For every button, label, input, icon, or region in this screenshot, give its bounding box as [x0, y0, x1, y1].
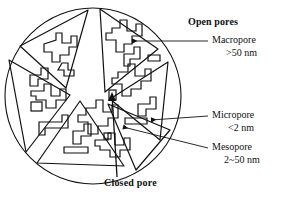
label-mesopore: Mesopore — [212, 142, 252, 153]
label-closed-pore: Closed pore — [104, 178, 157, 189]
leader-mesopore — [123, 127, 208, 148]
label-micropore: Micropore — [212, 110, 254, 121]
label-macropore: Macropore — [212, 35, 256, 46]
figure-canvas: Open pores Macropore >50 nm Micropore <2… — [0, 0, 281, 198]
label-open-pores: Open pores — [188, 17, 238, 28]
leader-micropore — [151, 116, 208, 120]
label-macropore-size: >50 nm — [226, 48, 257, 59]
pore-structure-diagram — [0, 0, 281, 198]
label-mesopore-size: 2~50 nm — [224, 155, 260, 166]
wedge-segments — [9, 9, 170, 170]
label-micropore-size: <2 nm — [228, 123, 254, 134]
closed-pore-left — [31, 102, 42, 111]
